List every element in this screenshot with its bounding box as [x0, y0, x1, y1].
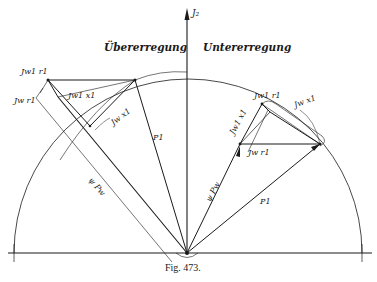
axis-arrow-icon [185, 8, 190, 20]
right-label-p1: P1 [260, 198, 270, 206]
underexcitation-heading: Untererregung [203, 42, 291, 53]
left-label-p1: P1 [153, 134, 163, 142]
figure-caption: Fig. 473. [165, 262, 201, 273]
left-label-jw-r1: Jw r1 [14, 97, 36, 105]
left-label-jw1-x1: Jw1 x1 [68, 92, 95, 100]
phasor-diagram [0, 0, 377, 282]
overexcitation-heading: Übererregung [104, 42, 187, 53]
right-label-jw1-r1: Jw1 r1 [254, 92, 281, 100]
left-phasors [36, 72, 187, 262]
axis-label: J₂ [192, 9, 199, 18]
locus-semicircle [14, 79, 362, 253]
right-phasors [187, 101, 325, 253]
right-label-jw-r1: Jw r1 [248, 149, 270, 157]
left-label-jw1-r1: Jw1 r1 [21, 68, 48, 76]
